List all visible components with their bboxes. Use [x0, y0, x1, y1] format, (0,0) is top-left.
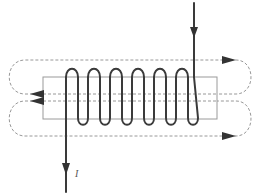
flux-arrow-top-right-icon	[222, 56, 236, 64]
flux-arrow-left-upper-icon	[30, 90, 44, 98]
core-rectangle	[43, 77, 217, 119]
current-in-arrow-icon	[190, 27, 198, 38]
flux-arrow-bottom-right-icon	[222, 132, 236, 140]
flux-arrow-left-lower-icon	[30, 97, 44, 105]
current-out-arrow-icon	[62, 163, 70, 175]
current-label: I	[75, 168, 78, 179]
solenoid-diagram	[0, 0, 259, 195]
